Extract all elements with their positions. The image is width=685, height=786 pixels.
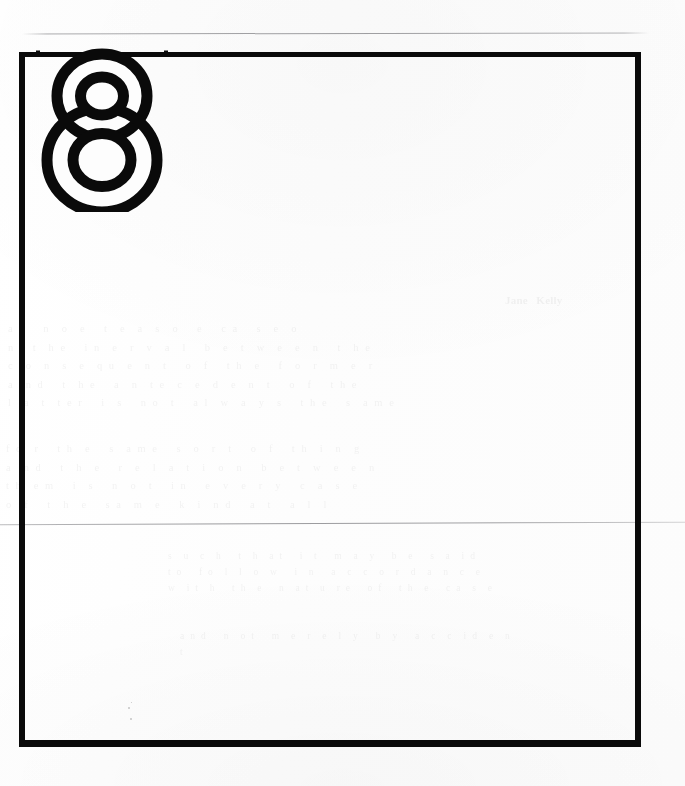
scan-speck (130, 718, 132, 720)
scan-speck (131, 702, 132, 703)
page-number-8-mark (36, 44, 168, 212)
scanned-page: Jane Kelly a e n o e t e a s o e c a s e… (0, 0, 685, 786)
scan-speck (128, 707, 130, 709)
outlined-eight-glyph (36, 44, 168, 212)
top-scanner-rule (22, 33, 649, 35)
